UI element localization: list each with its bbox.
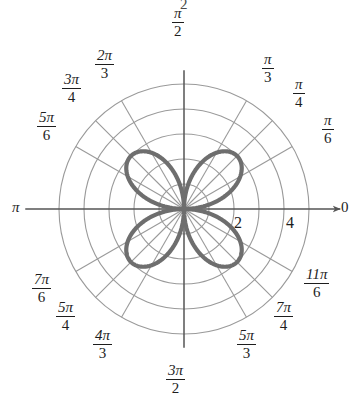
radial-tick-label-2: 2 <box>234 214 242 232</box>
angle-label-denominator: 6 <box>37 127 56 143</box>
angle-label-numerator: 5π <box>237 328 256 345</box>
angle-label-five-pi-over-6: 5π6 <box>37 110 56 143</box>
angle-label-numerator: 3π <box>166 363 185 380</box>
angle-label-numerator: 5π <box>37 110 56 127</box>
angle-label-denominator: 2 <box>166 380 185 396</box>
angle-label-zero: 0 <box>341 199 349 215</box>
angle-label-denominator: 3 <box>262 69 274 85</box>
angle-label-denominator: 4 <box>274 317 293 333</box>
angle-label-pi: π <box>12 199 20 215</box>
angle-label-numerator: 7π <box>32 272 51 289</box>
angle-label-three-pi-over-2: 3π2 <box>166 363 185 396</box>
angle-label-denominator: 6 <box>304 284 329 300</box>
angle-label-numerator: 4π <box>93 328 112 345</box>
angle-label-denominator: 3 <box>237 345 256 361</box>
angle-label-numerator: 5π <box>56 300 75 317</box>
angle-label-numerator: π <box>293 77 305 94</box>
angle-label-denominator: 3 <box>95 65 114 81</box>
angle-label-numerator: 11π <box>304 267 329 284</box>
angle-label-numerator: π <box>262 52 274 69</box>
angle-label-text: 0 <box>341 200 349 215</box>
angle-label-pi-over-6: π6 <box>322 113 334 146</box>
polar-plot-figure: 2 π22π33π45π6π7π65π44π33π25π37π411π6π6π4… <box>0 0 360 406</box>
angle-label-five-pi-over-4: 5π4 <box>56 300 75 333</box>
angle-label-denominator: 6 <box>32 289 51 305</box>
radial-tick-label-4: 4 <box>286 214 294 232</box>
angle-label-numerator: 2π <box>95 48 114 65</box>
angle-label-denominator: 6 <box>322 130 334 146</box>
angle-label-denominator: 4 <box>56 317 75 333</box>
angle-label-pi-over-2: π2 <box>172 6 184 39</box>
angle-label-denominator: 4 <box>293 94 305 110</box>
angle-label-eleven-pi-over-6: 11π6 <box>304 267 329 300</box>
angle-label-numerator: 7π <box>274 300 293 317</box>
angle-label-numerator: π <box>172 6 184 23</box>
angle-label-pi-over-4: π4 <box>293 77 305 110</box>
angle-label-numerator: π <box>322 113 334 130</box>
angle-label-denominator: 3 <box>93 345 112 361</box>
angle-label-text: π <box>12 200 20 215</box>
angle-label-numerator: 3π <box>62 72 81 89</box>
angle-label-pi-over-3: π3 <box>262 52 274 85</box>
angle-label-three-pi-over-4: 3π4 <box>62 72 81 105</box>
angle-label-denominator: 2 <box>172 23 184 39</box>
polar-plot-canvas <box>0 0 360 406</box>
angle-label-two-pi-over-3: 2π3 <box>95 48 114 81</box>
angle-label-four-pi-over-3: 4π3 <box>93 328 112 361</box>
angle-label-seven-pi-over-4: 7π4 <box>274 300 293 333</box>
angle-label-five-pi-over-3: 5π3 <box>237 328 256 361</box>
angle-label-seven-pi-over-6: 7π6 <box>32 272 51 305</box>
angle-label-denominator: 4 <box>62 89 81 105</box>
